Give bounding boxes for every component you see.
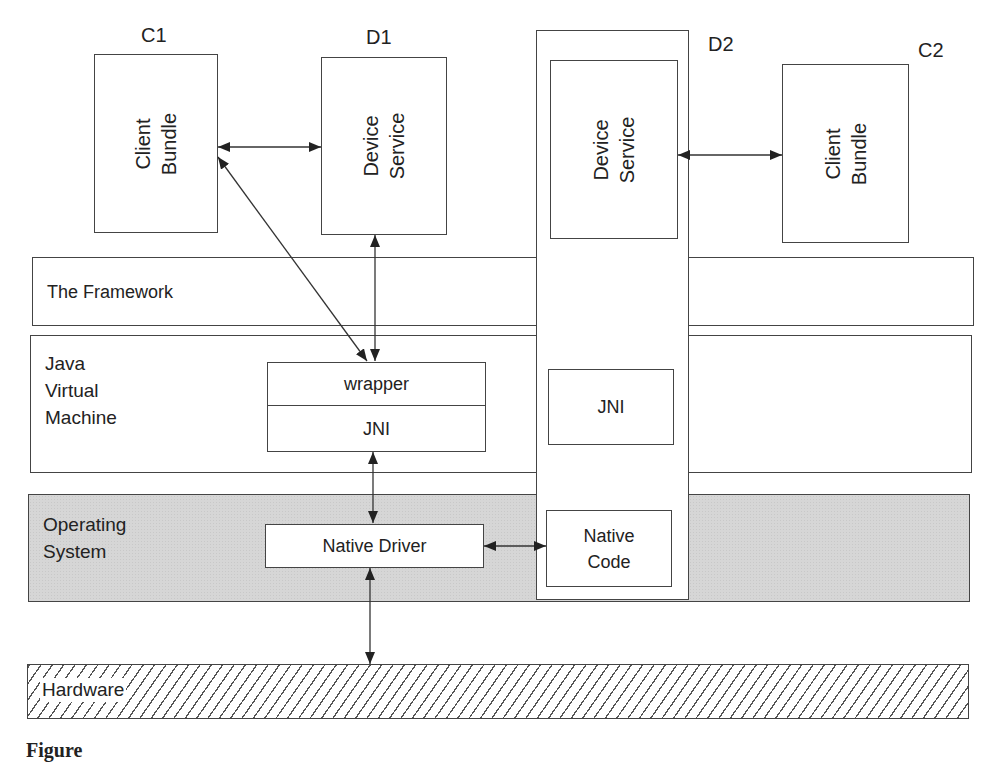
jvm-label-line2: Virtual	[45, 377, 117, 404]
native-driver-box: Native Driver	[265, 524, 484, 568]
d1-device-service: Device Service	[321, 57, 447, 235]
c2-label-line1: Client	[820, 122, 846, 184]
native-code-line1: Native	[583, 523, 634, 549]
native-code-line2: Code	[587, 549, 630, 575]
jni-left-box: JNI	[268, 406, 485, 451]
c2-label: Client Bundle	[820, 122, 872, 184]
c1-client-bundle: Client Bundle	[94, 54, 218, 233]
d2-label-line2: Service	[614, 116, 640, 183]
jvm-layer: Java Virtual Machine	[30, 335, 972, 473]
os-label: Operating System	[43, 511, 126, 565]
jvm-label-line3: Machine	[45, 404, 117, 431]
c1-label-line1: Client	[130, 112, 156, 174]
c2-label-line2: Bundle	[846, 122, 872, 184]
framework-label: The Framework	[47, 280, 173, 304]
c1-tag: C1	[141, 23, 167, 47]
wrapper-jni-box: wrapper JNI	[267, 362, 486, 452]
native-code-box: Native Code	[546, 510, 672, 587]
c2-client-bundle: Client Bundle	[782, 64, 909, 243]
d1-label-line2: Service	[384, 113, 410, 180]
c2-tag: C2	[918, 38, 944, 62]
jvm-label-line1: Java	[45, 350, 117, 377]
os-label-line2: System	[43, 538, 126, 565]
d2-tag: D2	[708, 32, 734, 56]
wrapper-box: wrapper	[268, 363, 485, 406]
jni-right-box: JNI	[548, 369, 674, 445]
figure-caption: Figure	[26, 738, 82, 762]
hardware-layer: Hardware	[27, 664, 969, 719]
d2-device-service: Device Service	[550, 60, 678, 239]
d1-label-line1: Device	[358, 113, 384, 180]
operating-system-layer: Operating System	[28, 494, 970, 602]
c1-label-line2: Bundle	[156, 112, 182, 174]
d1-label: Device Service	[358, 113, 410, 180]
d2-label-line1: Device	[588, 116, 614, 183]
jvm-label: Java Virtual Machine	[45, 350, 117, 431]
framework-layer: The Framework	[32, 257, 974, 326]
hardware-label: Hardware	[40, 678, 126, 702]
d2-label: Device Service	[588, 116, 640, 183]
d1-tag: D1	[366, 25, 392, 49]
c1-label: Client Bundle	[130, 112, 182, 174]
os-label-line1: Operating	[43, 511, 126, 538]
